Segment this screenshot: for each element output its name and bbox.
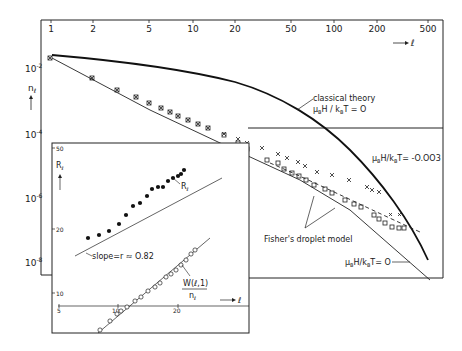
main-plot-frame (41, 20, 443, 128)
x-tick: 200 (368, 24, 385, 34)
x-tick: 20 (229, 24, 241, 34)
x-axis-ticks: 1 2 5 10 20 50 100 200 500 (48, 24, 437, 34)
svg-text:W(ℓ,1): W(ℓ,1) (183, 279, 208, 288)
inset-y-tick: 10 (56, 290, 64, 297)
x-tick: 500 (419, 24, 436, 34)
y-axis-label: nℓ (28, 83, 37, 110)
svg-text:ℓ: ℓ (410, 38, 415, 48)
h0-annotation: μBH/kBT= O (345, 258, 410, 268)
svg-text:10-4: 10-4 (25, 128, 43, 140)
inset-y-tick: 20 (56, 226, 64, 233)
fisher-h003-dashed-line (270, 163, 420, 232)
x-tick: 1 (48, 24, 54, 34)
svg-text:slope=r ≈ O.82: slope=r ≈ O.82 (92, 252, 154, 261)
svg-text:Fisher's droplet model: Fisher's droplet model (264, 235, 353, 244)
svg-text:20: 20 (173, 307, 181, 314)
x-tick: 100 (325, 24, 342, 34)
svg-text:μBH/kBT= -O.OO3: μBH/kBT= -O.OO3 (372, 154, 441, 164)
inset-plot: 50 20 10 Rℓ 5 10 20 ℓ Rℓ (52, 143, 249, 333)
x-axis-label: ℓ (393, 38, 415, 48)
svg-text:μBH/kBT= O: μBH/kBT= O (345, 258, 391, 268)
x-tick: 2 (90, 24, 96, 34)
inset-y-tick: 50 (56, 145, 64, 152)
classical-theory-annotation: classical theory μBH / kBT = O (297, 94, 375, 115)
svg-text:10-2: 10-2 (25, 62, 43, 74)
svg-text:μBH / kBT = O: μBH / kBT = O (313, 105, 366, 115)
x-tick: 10 (187, 24, 199, 34)
chart-canvas: 1 2 5 10 20 50 100 200 500 ℓ 10-2 10-4 1… (0, 0, 462, 351)
h003-annotation: μBH/kBT= -O.OO3 (372, 154, 441, 164)
svg-text:10-6: 10-6 (25, 192, 43, 204)
svg-text:5: 5 (57, 307, 61, 314)
svg-text:nℓ: nℓ (28, 83, 37, 94)
svg-text:classical theory: classical theory (313, 94, 375, 103)
x-tick: 5 (146, 24, 152, 34)
svg-text:10-8: 10-8 (25, 256, 43, 268)
svg-text:ℓ: ℓ (237, 296, 241, 305)
x-tick: 50 (285, 24, 297, 34)
